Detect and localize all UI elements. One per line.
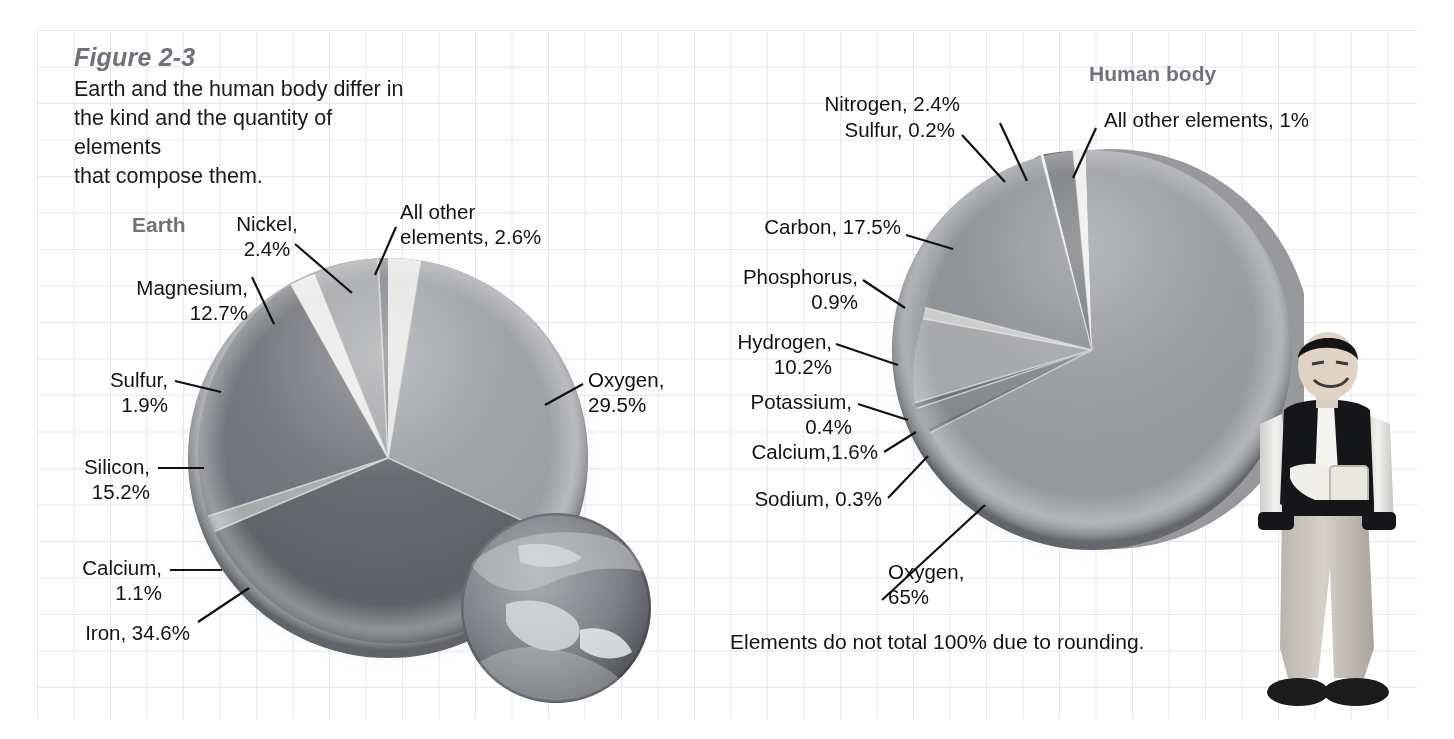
label-earth-oxygen: Oxygen, 29.5% — [588, 368, 664, 417]
label-body-all-other: All other elements, 1% — [1104, 108, 1309, 133]
label-body-sulfur: Sulfur, 0.2% — [780, 118, 955, 143]
label-body-carbon: Carbon, 17.5% — [726, 215, 901, 240]
label-body-calcium: Calcium,1.6% — [700, 440, 878, 465]
label-earth-calcium: Calcium, 1.1% — [50, 556, 162, 605]
label-earth-silicon: Silicon, 15.2% — [50, 455, 150, 504]
figure-footnote: Elements do not total 100% due to roundi… — [730, 630, 1144, 654]
label-earth-iron: Iron, 34.6% — [48, 621, 190, 646]
figure-description: Earth and the human body differ in the k… — [74, 75, 404, 191]
earth-chart-title: Earth — [132, 213, 186, 237]
label-earth-magnesium: Magnesium, 12.7% — [60, 276, 248, 325]
human-body-chart-title: Human body — [1089, 62, 1216, 86]
figure-caption: Figure 2-3 Earth and the human body diff… — [74, 44, 404, 191]
label-earth-sulfur: Sulfur, 1.9% — [60, 368, 168, 417]
label-earth-nickel: Nickel, 2.4% — [222, 212, 312, 261]
figure-canvas: Figure 2-3 Earth and the human body diff… — [0, 0, 1454, 739]
figure-number: Figure 2-3 — [74, 44, 404, 72]
label-body-potassium: Potassium, 0.4% — [700, 390, 852, 439]
label-earth-all-other: All other elements, 2.6% — [400, 200, 541, 249]
label-body-hydrogen: Hydrogen, 10.2% — [700, 330, 832, 379]
label-body-sodium: Sodium, 0.3% — [700, 487, 882, 512]
earth-globe-photo — [460, 512, 652, 704]
label-body-phosphorus: Phosphorus, 0.9% — [700, 265, 858, 314]
label-body-oxygen: Oxygen, 65% — [888, 560, 964, 609]
smiling-student-photo — [1238, 318, 1416, 730]
label-body-nitrogen: Nitrogen, 2.4% — [780, 92, 960, 117]
